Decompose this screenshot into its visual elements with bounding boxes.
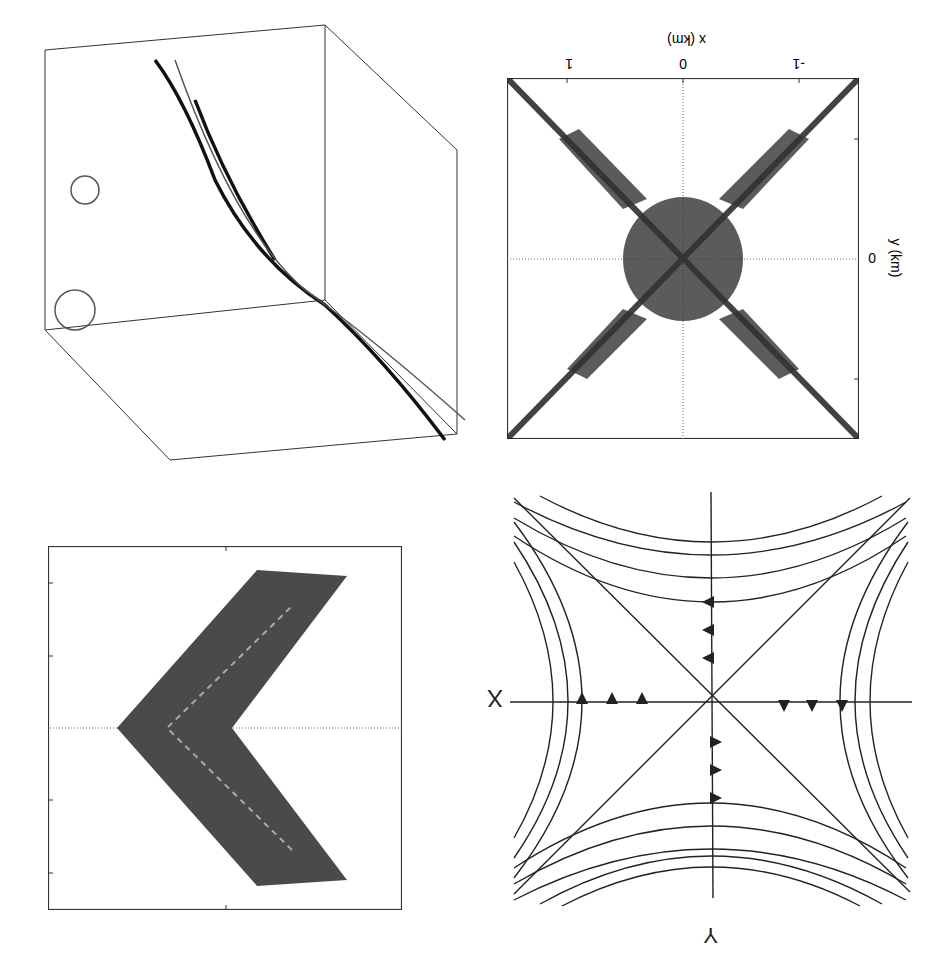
hyperbolic-streamline-diagram: Y [508, 488, 912, 908]
xplot-ylabel: y (km) [888, 239, 904, 278]
trajectory-chevron-plot [48, 546, 402, 910]
hyperbolic-y-label: Y [703, 922, 718, 948]
xplot-xlabel: x (km) [667, 32, 706, 48]
xplot-xtick--1: -1 [793, 56, 805, 72]
xplot-ytick-0: 0 [868, 250, 876, 266]
figure: Y Y X -1 0 1 x (km) y (km) 0 [0, 0, 951, 956]
hyperbolic-x-label: X [487, 684, 503, 712]
xplot-xtick-1: 1 [565, 56, 573, 72]
trajectory-x-plot [507, 78, 859, 439]
xplot-xtick-0: 0 [679, 56, 687, 72]
3d-trajectory-cube [5, 10, 475, 480]
